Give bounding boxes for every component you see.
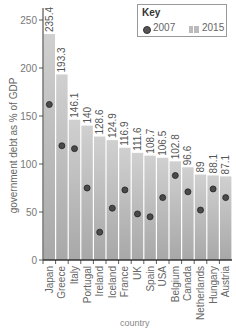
y-tick-label: 0 — [31, 255, 37, 266]
category-label: Japan — [44, 266, 55, 293]
bar-value-label: 140 — [82, 106, 93, 123]
y-tick-label: 200 — [20, 63, 37, 74]
bar-usa — [157, 158, 168, 260]
bar-value-label: 124.9 — [107, 113, 118, 138]
dot-2007-austria — [223, 195, 229, 201]
dot-2007-netherlands — [198, 207, 204, 213]
bar-austria — [220, 176, 231, 260]
category-label: Portugal — [82, 266, 93, 303]
dot-2007-uk — [135, 211, 141, 217]
dot-2007-ireland — [97, 229, 103, 235]
category-label: Spain — [145, 266, 156, 292]
bar-value-label: 116.9 — [119, 121, 130, 146]
category-label: UK — [132, 266, 143, 280]
y-tick-label: 150 — [20, 111, 37, 122]
dot-2007-iceland — [109, 205, 115, 211]
category-label: Italy — [69, 266, 80, 284]
bar-value-label: 235.4 — [44, 7, 55, 32]
bar-value-label: 106.5 — [157, 130, 168, 155]
bar-value-label: 193.3 — [56, 47, 67, 72]
bar-spain — [144, 156, 155, 260]
y-tick-label: 100 — [20, 159, 37, 170]
legend: Key 2007 2015 — [137, 4, 227, 37]
bar-value-label: 96.6 — [182, 145, 193, 165]
dot-2007-france — [122, 187, 128, 193]
dot-2007-spain — [147, 214, 153, 220]
bar-value-label: 87.1 — [220, 154, 231, 174]
bar-uk — [132, 153, 143, 260]
bar-value-label: 102.8 — [170, 134, 181, 159]
category-label: USA — [157, 266, 168, 287]
legend-dot-icon — [143, 26, 151, 34]
legend-label-2007: 2007 — [153, 22, 175, 33]
category-label: Netherlands — [195, 266, 206, 320]
dot-2007-italy — [72, 146, 78, 152]
bar-netherlands — [195, 175, 206, 260]
category-label: Greece — [56, 266, 67, 299]
bar-canada — [182, 167, 193, 260]
category-label: Iceland — [107, 266, 118, 298]
legend-title: Key — [142, 7, 160, 18]
category-label: Canada — [182, 266, 193, 301]
bar-portugal — [81, 126, 92, 260]
category-label: Austria — [220, 266, 231, 298]
bar-value-label: 128.6 — [94, 109, 105, 134]
y-axis-label: government debt as % of GDP — [8, 71, 19, 221]
bar-value-label: 111.6 — [132, 127, 143, 151]
dot-2007-japan — [46, 101, 52, 107]
legend-label-2015: 2015 — [202, 22, 224, 33]
bar-value-label: 146.1 — [69, 92, 80, 117]
dot-2007-greece — [59, 143, 65, 149]
y-tick-label: 250 — [20, 15, 37, 26]
bar-greece — [56, 74, 67, 260]
dot-2007-canada — [185, 189, 191, 195]
category-label: Hungary — [208, 266, 219, 304]
legend-bar-icon — [189, 26, 199, 33]
category-label: Belgium — [170, 266, 181, 302]
y-tick-label: 50 — [26, 207, 38, 218]
bar-japan — [44, 34, 55, 260]
bar-value-label: 88.1 — [208, 154, 219, 174]
category-label: France — [119, 266, 130, 298]
bar-ireland — [94, 137, 105, 260]
bar-italy — [69, 120, 80, 260]
category-label: Ireland — [94, 266, 105, 297]
dot-2007-hungary — [210, 186, 216, 192]
bar-value-label: 108.7 — [145, 128, 156, 153]
bar-france — [119, 148, 130, 260]
bar-value-label: 89 — [195, 161, 206, 173]
dot-2007-usa — [160, 195, 166, 201]
bar-iceland — [107, 140, 118, 260]
dot-2007-portugal — [84, 185, 90, 191]
dot-2007-belgium — [172, 173, 178, 179]
x-axis-label: country — [120, 318, 150, 328]
